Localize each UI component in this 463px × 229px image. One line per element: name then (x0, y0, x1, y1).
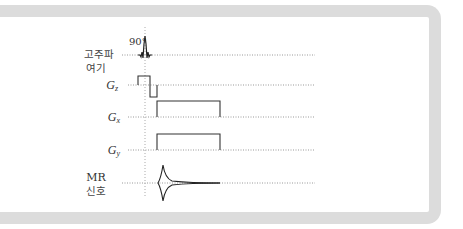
gz-label: Gz (106, 78, 119, 93)
mr-label-line2: 신호 (86, 185, 106, 197)
rf-label-line2: 여기 (86, 62, 106, 74)
mr-label-line1: MR (86, 171, 106, 184)
gx-gradient-waveform (157, 101, 220, 117)
rf-label-line1: 고주파 (84, 48, 114, 60)
mr-signal-lower (158, 183, 220, 201)
pulse-sequence-diagram: 90° 고주파 여기 Gz Gx Gy MR 신호 (0, 0, 463, 229)
gx-label: Gx (108, 110, 121, 125)
rf-flip-angle-label: 90° (129, 36, 147, 47)
mr-signal-upper (158, 165, 220, 183)
gy-label: Gy (108, 143, 121, 158)
gy-gradient-waveform (157, 134, 220, 150)
gz-gradient-waveform (138, 76, 157, 97)
